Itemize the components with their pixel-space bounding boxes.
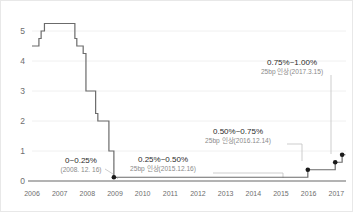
- x-tick-label: 2014: [246, 190, 262, 197]
- x-tick-label: 2006: [24, 190, 40, 197]
- x-tick-label: 2013: [218, 190, 234, 197]
- x-tick-label: 2009: [107, 190, 123, 197]
- y-axis-ticks: 012345: [20, 26, 25, 186]
- x-tick-label: 2012: [190, 190, 206, 197]
- y-tick-label: 2: [20, 116, 25, 126]
- y-tick-label: 0: [20, 176, 25, 186]
- event-marker: [112, 175, 117, 180]
- event-marker: [333, 160, 338, 165]
- annotations-group: 0~0.25%(2008. 12. 16)0.25%~0.50%25bp 인상(…: [60, 58, 323, 174]
- event-marker: [306, 167, 311, 172]
- annotation-title: 0~0.25%: [65, 156, 97, 165]
- x-tick-label: 2010: [135, 190, 151, 197]
- annotation-subtitle: (2008. 12. 16): [60, 166, 101, 174]
- gridlines-group: [32, 31, 346, 151]
- y-tick-label: 1: [20, 146, 25, 156]
- annotation-ann-2017: 0.75%~1.00%25bp 인상(2017.3.15): [261, 58, 323, 76]
- leader-line: [287, 144, 302, 161]
- x-axis-ticks: 2006200720082009201020112012201320142015…: [24, 190, 344, 197]
- annotation-subtitle: 25bp 인상(2015.12.16): [130, 164, 196, 173]
- y-tick-label: 4: [20, 56, 25, 66]
- annotation-title: 0.50%~0.75%: [213, 127, 263, 136]
- x-tick-label: 2011: [163, 190, 178, 197]
- annotation-title: 0.75%~1.00%: [267, 58, 317, 67]
- x-tick-label: 2015: [273, 190, 289, 197]
- event-marker: [340, 152, 345, 157]
- x-tick-label: 2008: [80, 190, 96, 197]
- x-tick-label: 2016: [301, 190, 317, 197]
- x-tick-label: 2017: [329, 190, 345, 197]
- annotation-ann-2016: 0.50%~0.75%25bp 인상(2016.12.14): [205, 127, 271, 145]
- rate-step-line: [32, 24, 345, 178]
- annotation-subtitle: 25bp 인상(2016.12.14): [205, 136, 271, 145]
- y-tick-label: 3: [20, 86, 25, 96]
- x-tick-label: 2007: [52, 190, 68, 197]
- annotation-ann-2008: 0~0.25%(2008. 12. 16): [60, 156, 101, 174]
- annotation-title: 0.25%~0.50%: [138, 155, 188, 164]
- rate-chart: 012345 200620072008200920102011201220132…: [1, 1, 353, 212]
- y-tick-label: 5: [20, 26, 25, 36]
- chart-container: 012345 200620072008200920102011201220132…: [0, 0, 353, 212]
- annotation-subtitle: 25bp 인상(2017.3.15): [261, 67, 323, 76]
- annotation-ann-2015: 0.25%~0.50%25bp 인상(2015.12.16): [130, 155, 196, 173]
